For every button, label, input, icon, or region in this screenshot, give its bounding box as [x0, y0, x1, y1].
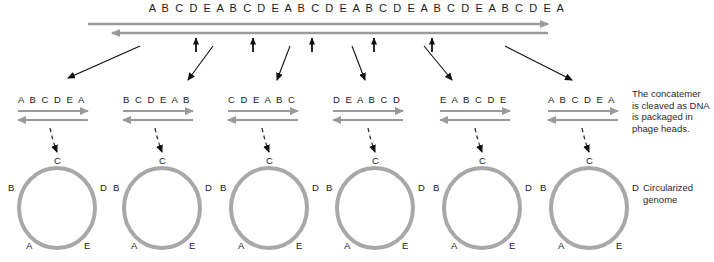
genome-1-letter-b: B: [8, 182, 14, 193]
genome-2-letter-c: C: [159, 155, 166, 166]
fragment-strands: [18, 111, 618, 120]
genome-5-letter-d: D: [525, 182, 532, 193]
cleavage-caption: The concatemer is cleaved as DNA is pack…: [632, 88, 710, 134]
genome-3-letter-d: D: [312, 182, 319, 193]
fragment-label-2: B C D E A B: [123, 94, 191, 105]
fragment-label-3: C D E A B C: [228, 94, 296, 105]
genome-2-letter-b: B: [113, 182, 119, 193]
phage-concatemer-diagram: A B C D E A B C D E A B C D E A B C D E …: [0, 0, 714, 262]
genome-2-letter-a: A: [131, 240, 137, 251]
genome-3-letter-b: B: [220, 182, 226, 193]
genome-5-letter-c: C: [479, 155, 486, 166]
circular-genomes: [19, 168, 627, 248]
genome-3-letter-e: E: [296, 240, 302, 251]
circularization-arrows: [50, 128, 589, 152]
genome-1-letter-a: A: [26, 240, 32, 251]
genome-4-letter-b: B: [326, 182, 332, 193]
genome-2-letter-d: D: [205, 182, 212, 193]
genome-4-letter-a: A: [344, 240, 350, 251]
genome-6-letter-c: C: [586, 155, 593, 166]
fragment-label-4: D E A B C D: [333, 94, 401, 105]
genome-1-letter-c: C: [54, 155, 61, 166]
concatemer-strands: [88, 24, 548, 33]
cleavage-site-arrows: [196, 38, 432, 52]
genome-4-letter-c: C: [372, 155, 379, 166]
fragment-label-1: A B C D E A: [18, 94, 86, 105]
genome-5-letter-e: E: [509, 240, 515, 251]
genome-6-letter-e: E: [616, 240, 622, 251]
fragment-label-5: E A B C D E: [440, 94, 508, 105]
diagram-vector-layer: [0, 0, 714, 262]
packaging-arrows: [68, 46, 572, 80]
genome-5-letter-b: B: [433, 182, 439, 193]
genome-6-letter-b: B: [540, 182, 546, 193]
genome-5-letter-a: A: [451, 240, 457, 251]
genome-4-letter-d: D: [418, 182, 425, 193]
genome-3-letter-a: A: [238, 240, 244, 251]
circularized-genome-caption: Circularized genome: [643, 182, 709, 205]
genome-1-letter-e: E: [84, 240, 90, 251]
genome-2-letter-e: E: [189, 240, 195, 251]
genome-6-letter-a: A: [558, 240, 564, 251]
genome-3-letter-c: C: [266, 155, 273, 166]
genome-4-letter-e: E: [402, 240, 408, 251]
fragment-label-6: A B C D E A: [548, 94, 616, 105]
genome-6-letter-d: D: [632, 182, 639, 193]
genome-1-letter-d: D: [100, 182, 107, 193]
